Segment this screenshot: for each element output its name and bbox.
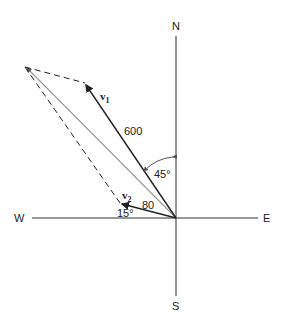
label-angle-45: 45°: [154, 168, 171, 180]
label-west: W: [14, 212, 25, 224]
label-v1-magnitude: 600: [124, 125, 142, 137]
vector-diagram: N S E W v1 600 45° v2 80 15°: [0, 0, 283, 325]
label-south: S: [172, 300, 179, 312]
label-east: E: [263, 212, 270, 224]
label-v2: v2: [122, 189, 132, 204]
label-angle-15: 15°: [117, 207, 134, 219]
label-v1: v1: [100, 90, 110, 105]
label-v2-magnitude: 80: [142, 199, 154, 211]
label-north: N: [172, 20, 180, 32]
dashed-line-left: [25, 67, 120, 203]
